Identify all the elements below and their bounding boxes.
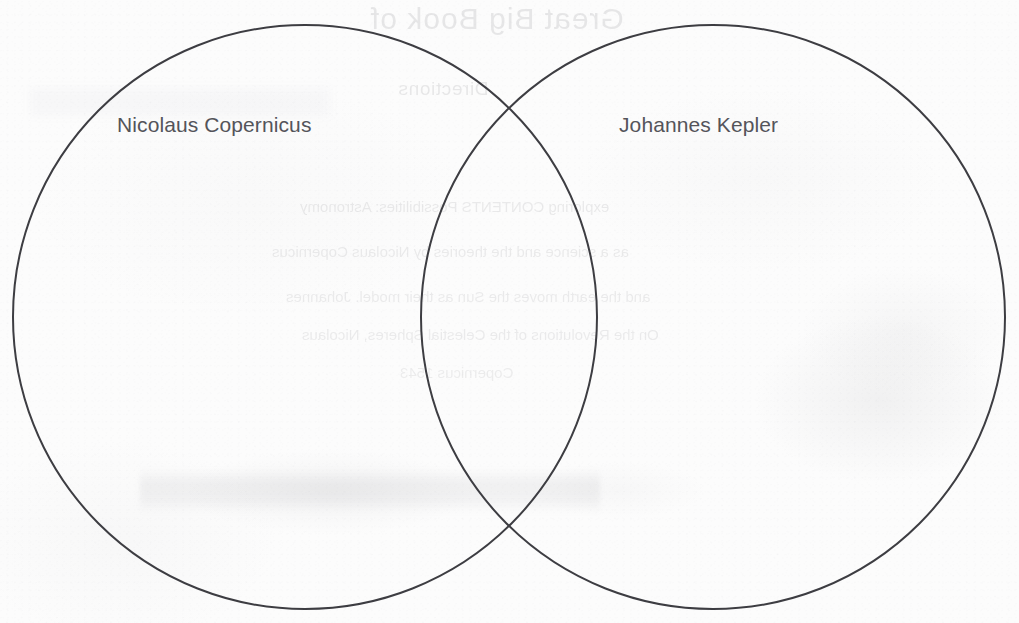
venn-label-left: Nicolaus Copernicus bbox=[117, 113, 312, 137]
venn-label-right: Johannes Kepler bbox=[619, 113, 778, 137]
worksheet-page: Great Big Book of Directions exploring C… bbox=[0, 0, 1019, 623]
venn-diagram bbox=[0, 0, 1019, 623]
